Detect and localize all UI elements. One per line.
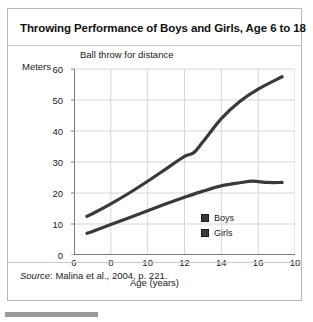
figure-frame: Throwing Performance of Boys and Girls, … [7,8,302,301]
source-divider [8,262,301,263]
chart-subtitle: Ball throw for distance [80,49,173,60]
legend-item-girls: Girls [201,228,234,238]
y-tick-label: 30 [52,157,63,168]
legend-swatch-icon [201,214,209,222]
y-tick-label: 0 [58,250,63,261]
legend-label-boys: Boys [214,213,234,223]
source-citation: : Malina et al., 2004, p. 221. [50,270,167,281]
source-label: Source [20,270,50,281]
legend-label-girls: Girls [214,228,233,238]
y-tick-label: 20 [52,188,63,199]
y-tick-label: 10 [52,219,63,230]
y-axis-title: Meters [22,61,51,72]
bottom-accent-bar [5,312,98,317]
plot-frame [74,69,295,255]
chart-legend: Boys Girls [201,213,234,243]
title-divider [8,45,301,46]
page-title: Throwing Performance of Boys and Girls, … [20,22,306,34]
y-tick-label: 50 [52,95,63,106]
source-note: Source: Malina et al., 2004, p. 221. [20,270,167,281]
legend-swatch-icon [201,229,209,237]
legend-item-boys: Boys [201,213,234,223]
y-tick-label: 40 [52,126,63,137]
plot-area: 0102030405060 681012141618 [67,61,295,255]
y-tick-label: 60 [52,64,63,75]
